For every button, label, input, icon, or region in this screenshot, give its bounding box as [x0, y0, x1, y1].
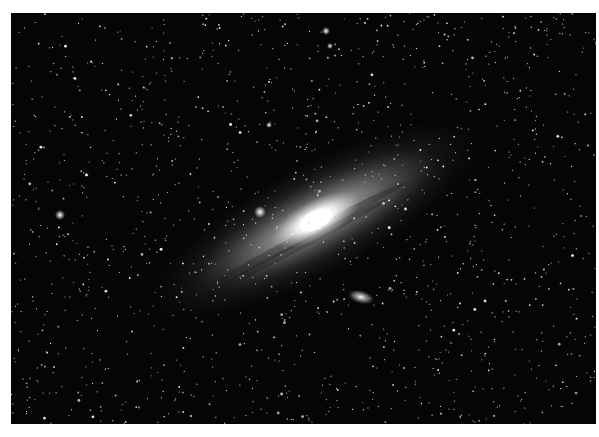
- galaxy-photo: [11, 13, 596, 424]
- galaxy-photo-canvas: [11, 13, 596, 424]
- satellite-galaxy: [346, 287, 377, 308]
- galaxy: [121, 80, 511, 361]
